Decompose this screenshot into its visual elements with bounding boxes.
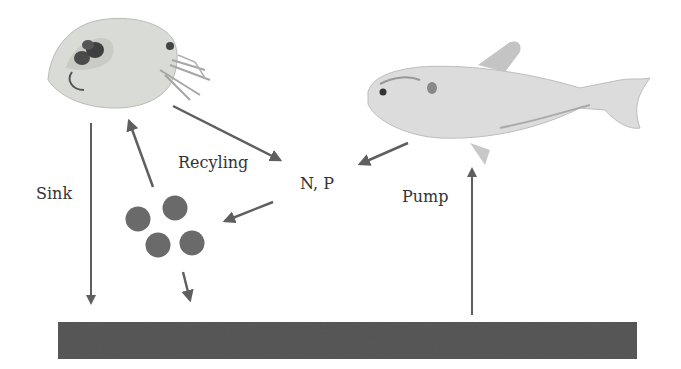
pump-label: Pump bbox=[402, 189, 448, 205]
particle bbox=[126, 207, 151, 232]
particles-to-zooplankton-arrow bbox=[129, 121, 153, 187]
particle bbox=[180, 231, 205, 256]
fish-illustration bbox=[368, 41, 650, 165]
nutrient-cycle-diagram bbox=[0, 0, 681, 369]
fish-excretion-arrow bbox=[360, 143, 408, 164]
particle-cluster bbox=[126, 196, 205, 258]
nutrients-label: N, P bbox=[300, 176, 334, 192]
particles-settling-arrow bbox=[183, 272, 190, 300]
recycling-label: Recyling bbox=[178, 155, 248, 171]
sink-label: Sink bbox=[36, 186, 72, 202]
particle bbox=[146, 233, 171, 258]
daphnia-illustration bbox=[48, 18, 210, 108]
sediment-layer bbox=[58, 322, 637, 359]
particle bbox=[163, 196, 188, 221]
nutrient-uptake-arrow bbox=[225, 202, 273, 221]
recycling-arrow bbox=[173, 106, 280, 160]
